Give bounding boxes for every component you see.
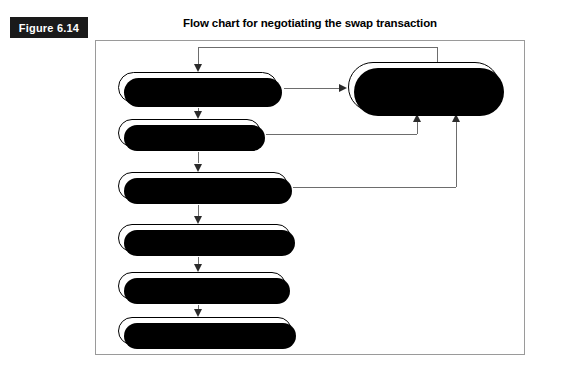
flow-node-fix-all-in-swap-rate[interactable]: Fix all-in swap rate verbally	[118, 224, 291, 252]
edge-n5-n6-arrowhead	[194, 309, 202, 317]
flow-node-label-line2: START AGAIN	[380, 87, 468, 100]
flow-node-label: Exchange confirmations	[135, 280, 268, 293]
edge-n2-n3-arrowhead	[194, 164, 202, 172]
flow-node-label: Exchange documentation	[135, 325, 275, 338]
edge-n3-n4-arrowhead	[194, 216, 202, 224]
flow-node-label: Fix all-in swap rate verbally	[130, 232, 279, 245]
edge-n1-breakoff-line	[284, 88, 340, 89]
edge-n3-n4-line	[198, 205, 199, 216]
flow-node-exchange-confirmations[interactable]: Exchange confirmations	[118, 272, 286, 300]
figure-number-badge: Figure 6.14	[10, 17, 88, 38]
edge-n3-breakoff-vertical	[456, 122, 457, 187]
flow-node-exchange-documentation[interactable]: Exchange documentation	[118, 317, 292, 345]
figure-page: Figure 6.14 Flow chart for negotiating t…	[0, 0, 563, 379]
edge-breakoff-to-spread-vertical-left	[198, 47, 199, 65]
edge-n2-n3-line	[198, 152, 199, 163]
flow-node-negotiate-swap-spread[interactable]: Negotiate swap spread	[118, 72, 278, 103]
flow-node-break-off-negotiation[interactable]: Break off negotiation START AGAIN	[348, 62, 500, 112]
edge-breakoff-to-spread-horizontal	[198, 47, 438, 48]
edge-n1-breakoff-arrowhead	[339, 84, 347, 92]
figure-title: Flow chart for negotiating the swap tran…	[95, 17, 525, 29]
edge-n3-breakoff-horizontal	[293, 187, 456, 188]
flow-node-label: Check credit lines	[138, 127, 241, 140]
flow-node-label: Negotiate swap spread	[134, 81, 263, 94]
edge-n4-n5-line	[198, 257, 199, 264]
edge-breakoff-to-spread-vertical-right	[437, 47, 438, 63]
flow-node-label: Negotiate benchmark yield	[130, 180, 276, 193]
edge-n2-breakoff-horizontal	[266, 134, 417, 135]
flow-node-check-credit-lines[interactable]: Check credit lines	[118, 119, 261, 147]
flow-node-negotiate-benchmark-yield[interactable]: Negotiate benchmark yield	[118, 172, 288, 200]
edge-n1-n2-arrowhead	[194, 111, 202, 119]
edge-n4-n5-arrowhead	[194, 264, 202, 272]
edge-breakoff-to-spread-arrowhead	[194, 64, 202, 72]
edge-n2-breakoff-vertical	[417, 122, 418, 134]
flow-node-label-line1: Break off negotiation	[366, 74, 483, 87]
figure-number-label: Figure 6.14	[19, 22, 79, 34]
